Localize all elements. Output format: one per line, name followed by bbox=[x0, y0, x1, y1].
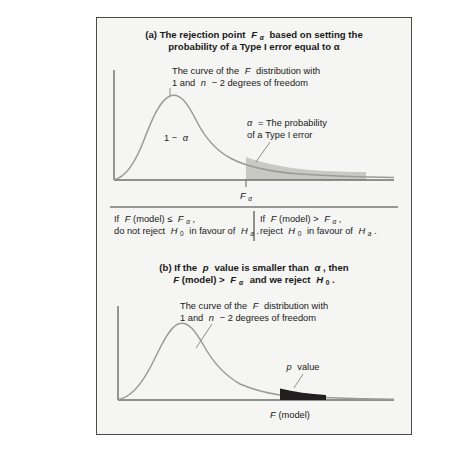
pa-cl1-f: F bbox=[245, 66, 252, 76]
panel-a-tail-alpha: α bbox=[247, 118, 253, 128]
panel-a-critical-f: F bbox=[240, 191, 247, 201]
dl1-c: F bbox=[178, 214, 185, 224]
panel-a-critical-sub: α bbox=[248, 195, 252, 202]
pb-cl1-a: The curve of the bbox=[180, 301, 247, 311]
panel-a-critical-label: F α bbox=[240, 191, 252, 202]
panel-a-tail-rest: = The probability bbox=[258, 118, 327, 128]
pb-h1-alpha: α bbox=[314, 262, 321, 273]
panel-a-curve-label: The curve of the F distribution with 1 a… bbox=[170, 66, 320, 96]
pb-h2-h-sub: 0 bbox=[326, 279, 330, 286]
figure-root: (a) The rejection point F α based on set… bbox=[0, 0, 473, 454]
svg-text:reject H 0: reject H 0 in favour of H a . bbox=[260, 226, 377, 238]
pb-cl2-n: n bbox=[209, 313, 214, 323]
dl1-b: (model) ≤ bbox=[133, 214, 172, 224]
panel-a-tail-label-line1: α = The probability bbox=[247, 118, 327, 128]
svg-text:The curve of the F: The curve of the F distribution with bbox=[172, 66, 320, 76]
panel-b-critical-rest: (model) bbox=[278, 410, 310, 420]
decision-left-block: If F (model) ≤ F α , do not reject H 0 i… bbox=[114, 214, 259, 238]
panel-b-density-curve bbox=[118, 323, 394, 399]
pb-h2-b: and we reject bbox=[250, 274, 312, 285]
pa-cl2-a: 1 and bbox=[172, 78, 195, 88]
panel-b-heading: (b) If the p value is smaller than α , t… bbox=[159, 262, 348, 287]
dr1-comma: , bbox=[339, 214, 342, 224]
dr1-sub: α bbox=[332, 218, 336, 225]
panel-a-area-label-one: 1 − bbox=[164, 133, 177, 143]
panel-a-plot: F α 1 − α α = The probability of a Type … bbox=[114, 70, 394, 202]
pa-cl2-n: n bbox=[201, 78, 206, 88]
svg-text:1 and n − 2 de: 1 and n − 2 degrees of freedom bbox=[180, 313, 316, 323]
pb-h2-falpha: F bbox=[230, 274, 237, 285]
panel-a-heading-tail: based on setting the bbox=[269, 29, 362, 40]
dr1-c: F bbox=[324, 214, 331, 224]
panel-a-heading-prefix: (a) The rejection point bbox=[145, 29, 246, 40]
panel-b-pvalue-tail-region bbox=[280, 389, 326, 401]
dr2-h-sub: 0 bbox=[298, 230, 302, 237]
panel-b-curve-label: The curve of the F distribution with 1 a… bbox=[180, 301, 328, 348]
dl1-sub: α bbox=[186, 218, 190, 225]
pb-h2-a: (model) > bbox=[182, 274, 225, 285]
dl2-a: do not reject bbox=[114, 226, 166, 236]
dl1-comma: , bbox=[192, 214, 195, 224]
dr2-period: . bbox=[374, 226, 377, 236]
pb-h1-p: p bbox=[202, 262, 209, 273]
dr1-f: F bbox=[271, 214, 278, 224]
dl1-f: F bbox=[125, 214, 132, 224]
statistics-diagram: (a) The rejection point F α based on set… bbox=[0, 0, 473, 454]
dr1-a: If bbox=[260, 214, 266, 224]
svg-text:If F (mode: If F (model) > F α , bbox=[260, 214, 341, 226]
panel-a-heading: (a) The rejection point F α based on set… bbox=[145, 29, 363, 52]
panel-a-heading-f: F bbox=[251, 29, 258, 40]
dl2-h2: H bbox=[241, 226, 248, 236]
dl2-h-sub: 0 bbox=[180, 230, 184, 237]
pb-h2-sub: α bbox=[239, 279, 244, 286]
pb-h2-h: H bbox=[316, 274, 324, 285]
panel-b-plot: p value F (model) bbox=[118, 306, 394, 420]
panel-b-critical-f: F bbox=[270, 410, 277, 420]
dr1-b: (model) > bbox=[279, 214, 319, 224]
dl2-b: in favour of bbox=[189, 226, 235, 236]
dr2-h2: H bbox=[359, 226, 366, 236]
panel-b-critical-label: F (model) bbox=[270, 410, 310, 420]
dl2-period: . bbox=[257, 226, 260, 236]
pb-h1-a: (b) If the bbox=[159, 262, 197, 273]
panel-b-tail-rest: value bbox=[297, 362, 319, 372]
pa-cl2-b: − 2 degrees of freedom bbox=[212, 78, 309, 88]
panel-b-tail-label: p value bbox=[286, 362, 320, 372]
pb-h1-c: , then bbox=[323, 262, 349, 273]
pb-h2-f: F bbox=[173, 274, 180, 285]
pb-cl2-b: − 2 degrees of freedom bbox=[220, 313, 317, 323]
panel-a-area-label: 1 − α bbox=[164, 133, 189, 143]
svg-text:If F (mode: If F (model) ≤ F α , bbox=[114, 214, 195, 226]
pa-cl1-b: distribution with bbox=[256, 66, 320, 76]
panel-a-area-label-alpha: α bbox=[183, 133, 189, 143]
dr2-b: in favour of bbox=[307, 226, 353, 236]
pb-cl1-f: F bbox=[253, 301, 260, 311]
dr2-h2-sub: a bbox=[368, 230, 372, 237]
panel-b-tail-leader-line bbox=[294, 374, 303, 388]
pb-cl1-b: distribution with bbox=[264, 301, 328, 311]
dl2-h: H bbox=[171, 226, 178, 236]
svg-text:F (model) > F: F (model) > F α and we reject H 0 . bbox=[173, 274, 335, 287]
pb-h1-b: value is smaller than bbox=[214, 262, 309, 273]
pa-cl1-a: The curve of the bbox=[172, 66, 239, 76]
decision-right-block: If F (model) > F α , reject H 0 in favou… bbox=[260, 214, 377, 238]
panel-b-tail-p: p bbox=[286, 362, 292, 372]
pb-h2-period: . bbox=[332, 274, 335, 285]
svg-text:The curve of the F: The curve of the F distribution with bbox=[180, 301, 328, 311]
dr2-h: H bbox=[288, 226, 295, 236]
svg-text:(b) If the p v: (b) If the p value is smaller than α , t… bbox=[159, 262, 348, 273]
dl2-h2-sub: a bbox=[250, 230, 254, 237]
panel-a-heading-line2: probability of a Type I error equal to α bbox=[168, 41, 340, 52]
dr2-a: reject bbox=[260, 226, 283, 236]
dl1-a: If bbox=[114, 214, 120, 224]
decision-band: If F (model) ≤ F α , do not reject H 0 i… bbox=[110, 207, 398, 241]
panel-a-tail-label-line2: of a Type I error bbox=[247, 130, 312, 140]
svg-text:do not reject H: do not reject H 0 in favour of H a . bbox=[114, 226, 259, 238]
svg-text:1 and n − 2 de: 1 and n − 2 degrees of freedom bbox=[172, 78, 308, 88]
panel-a-tail-leader-line bbox=[256, 142, 270, 162]
pb-cl2-a: 1 and bbox=[180, 313, 203, 323]
